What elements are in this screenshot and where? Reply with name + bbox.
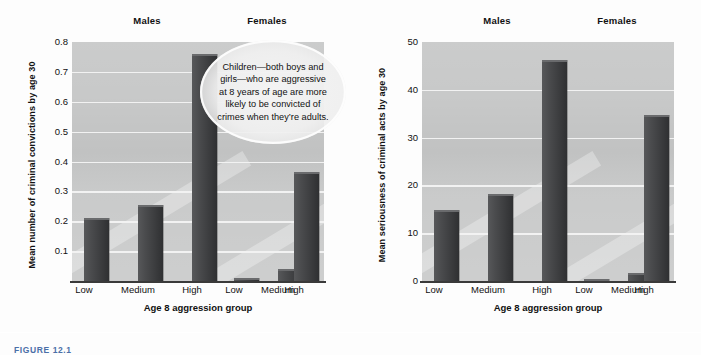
- y-tick: 0.8: [42, 36, 68, 47]
- callout-convictions: Children—both boys and girls—who are agg…: [200, 40, 346, 144]
- y-axis-title: Mean seriousness of criminal acts by age…: [377, 47, 387, 283]
- y-tick: 0.1: [42, 245, 68, 256]
- group-header-females: Females: [212, 15, 322, 26]
- y-tick: 10: [392, 227, 418, 238]
- figure-caption: FIGURE 12.1: [14, 345, 72, 355]
- figure-container: Males Females Mean number of criminal co…: [0, 0, 701, 355]
- y-tick: 0.3: [42, 185, 68, 196]
- y-tick: 30: [392, 132, 418, 143]
- y-axis-ticks: 50 40 30 20 10 0: [390, 42, 418, 281]
- x-axis-line: [70, 281, 326, 283]
- group-header-males: Males: [442, 15, 552, 26]
- y-tick: 0.7: [42, 66, 68, 77]
- x-axis-line: [420, 281, 676, 283]
- group-header-males: Males: [92, 15, 202, 26]
- figure-divider: [0, 332, 701, 333]
- y-tick: 40: [392, 84, 418, 95]
- y-tick: 0.2: [42, 215, 68, 226]
- x-tick-females-high: High: [267, 284, 321, 295]
- y-axis-ticks: 0.8 0.7 0.6 0.5 0.4 0.3 0.2 0.1: [40, 42, 68, 281]
- bar-males-medium: [488, 194, 513, 282]
- callout-text: Children—both boys and girls—who are agg…: [200, 61, 346, 123]
- y-tick: 20: [392, 179, 418, 190]
- bar-females-high: [644, 115, 669, 281]
- group-header-females: Females: [562, 15, 672, 26]
- y-tick: 50: [392, 36, 418, 47]
- x-tick-males-low: Low: [57, 284, 111, 295]
- chart-panel-convictions: Males Females Mean number of criminal co…: [0, 0, 350, 330]
- bar-males-medium: [138, 205, 163, 281]
- x-tick-males-medium: Medium: [111, 284, 165, 295]
- bar-females-high: [294, 172, 319, 281]
- x-tick-males-low: Low: [407, 284, 461, 295]
- chart-panel-seriousness: Males Females Mean seriousness of crimin…: [350, 0, 701, 330]
- x-axis-title: Age 8 aggression group: [422, 302, 674, 313]
- y-axis-title: Mean number of criminal convictions by a…: [27, 47, 37, 283]
- y-tick: 0.6: [42, 96, 68, 107]
- x-tick-females-high: High: [617, 284, 671, 295]
- bar-males-low: [84, 218, 109, 281]
- plot-area: [422, 42, 674, 281]
- bar-males-high: [542, 60, 567, 281]
- x-axis-title: Age 8 aggression group: [72, 302, 324, 313]
- bar-males-low: [434, 210, 459, 281]
- y-tick: 0.5: [42, 126, 68, 137]
- y-tick: 0.4: [42, 156, 68, 167]
- x-tick-males-medium: Medium: [461, 284, 515, 295]
